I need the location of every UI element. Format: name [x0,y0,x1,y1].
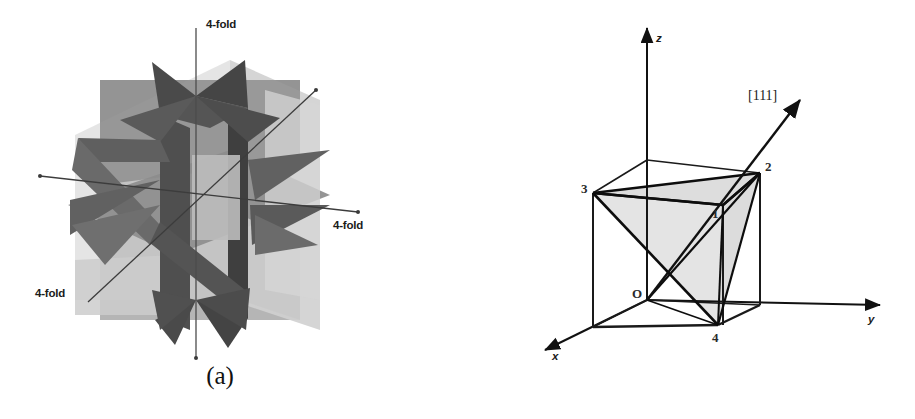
label-vertex-4: 4 [712,330,719,346]
label-axis-z: z [656,32,662,44]
axis-vertical-end-dot [194,356,198,360]
axis-y-line [647,300,880,305]
label-4fold-diagonal: 4-fold [35,287,65,299]
axis-horizontal-left-dot [38,174,42,178]
cube-edge-bottom-back-left [593,300,647,327]
label-axis-y: y [868,313,874,325]
label-vertex-2: 2 [765,159,772,175]
label-vertex-3: 3 [581,181,588,197]
panel-a: 4-fold 4-fold 4-fold (a) [0,0,460,419]
axis-diagonal-end-dot [314,88,318,92]
label-4fold-horizontal: 4-fold [333,219,363,231]
caption-panel-a: (a) [160,362,280,390]
cube-edge-back-top-right [647,160,760,173]
label-vertex-1: 1 [712,206,719,222]
cube-tetrahedron-diagram [460,0,915,419]
label-4fold-vertical: 4-fold [206,18,236,30]
cube-edge-bottom-front-left [593,325,718,327]
symmetry-planes-diagram [0,0,460,419]
label-axis-x: x [552,350,558,362]
label-direction-111: [111] [748,88,777,104]
axis-horizontal-right-dot [356,210,360,214]
figure-container: 4-fold 4-fold 4-fold (a) [0,0,915,419]
cube-edge-bottom-front-right [718,305,760,325]
label-origin: O [632,286,642,302]
panel-b: z y x [111] O 1 2 3 4 (b) [460,0,915,419]
